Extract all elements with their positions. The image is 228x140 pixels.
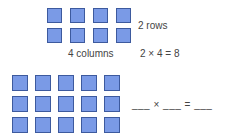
array-square (70, 8, 85, 23)
array-square (81, 75, 97, 91)
array-square (116, 28, 131, 43)
array-square (93, 8, 108, 23)
array-square (47, 8, 62, 23)
array-square (12, 117, 28, 133)
array-square (104, 117, 120, 133)
array-square (47, 28, 62, 43)
array-square (81, 96, 97, 112)
columns-label: 4 columns (68, 48, 114, 59)
rows-label: 2 rows (138, 20, 167, 31)
array-square (58, 96, 74, 112)
array-square (35, 117, 51, 133)
array-square (35, 96, 51, 112)
top-equation: 2 × 4 = 8 (140, 48, 179, 59)
top-array-grid (47, 8, 131, 43)
array-square (81, 117, 97, 133)
array-square (35, 75, 51, 91)
array-square (58, 117, 74, 133)
bottom-equation-blanks: ___ × ___ = ___ (132, 99, 212, 110)
array-square (116, 8, 131, 23)
array-square (104, 96, 120, 112)
array-square (58, 75, 74, 91)
bottom-array-grid (12, 75, 120, 133)
array-square (93, 28, 108, 43)
array-square (12, 96, 28, 112)
array-square (104, 75, 120, 91)
array-square (12, 75, 28, 91)
array-square (70, 28, 85, 43)
